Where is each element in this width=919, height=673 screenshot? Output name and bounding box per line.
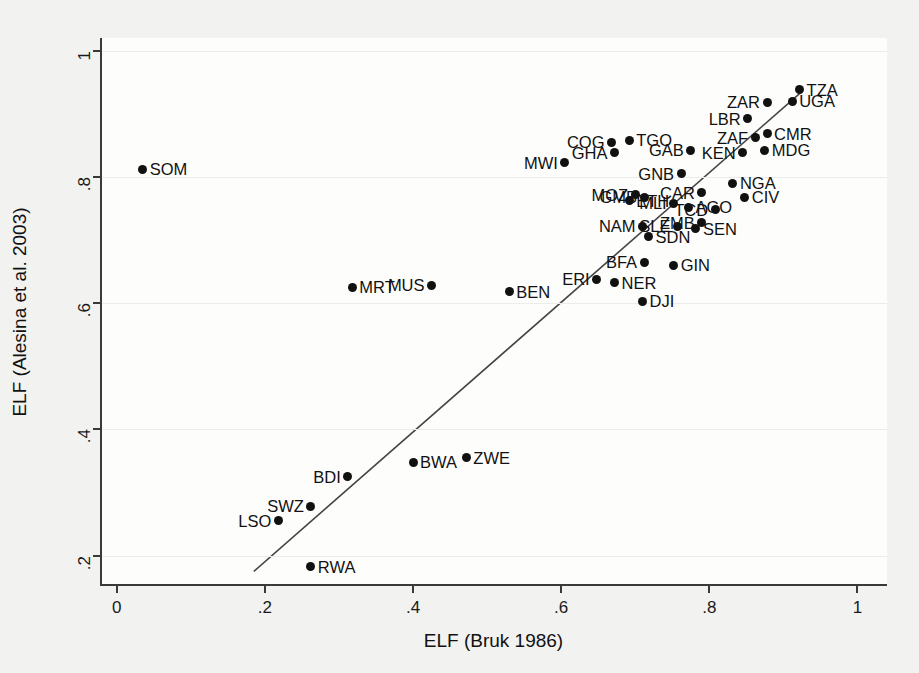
data-point bbox=[348, 283, 357, 292]
x-axis-tick bbox=[264, 584, 266, 593]
data-point-label: GMB bbox=[600, 189, 638, 206]
data-point-label: NGA bbox=[740, 175, 776, 192]
data-point-label: LBR bbox=[709, 111, 741, 128]
data-point-label: TZA bbox=[807, 82, 838, 99]
plot-area: SOMMRTMUSBENERINERDJIBFAGINNAMSDNSLESENZ… bbox=[102, 38, 887, 584]
data-point-label: ZAF bbox=[717, 129, 748, 146]
data-point-label: ZWE bbox=[473, 450, 510, 467]
data-point-label: SOM bbox=[150, 161, 188, 178]
x-axis-title: ELF (Bruk 1986) bbox=[100, 630, 887, 652]
data-point-label: LSO bbox=[238, 513, 271, 530]
data-point bbox=[640, 258, 649, 267]
data-point-label: ERI bbox=[562, 271, 590, 288]
data-point bbox=[763, 98, 772, 107]
data-point bbox=[788, 97, 797, 106]
data-point bbox=[763, 129, 772, 138]
gridline-y bbox=[102, 429, 887, 430]
data-point-label: DJI bbox=[650, 293, 675, 310]
x-axis-tick-label: 0 bbox=[112, 598, 121, 618]
data-point-label: KEN bbox=[702, 145, 736, 162]
x-axis-tick-label: .4 bbox=[406, 598, 420, 618]
data-point-label: SWZ bbox=[267, 498, 304, 515]
data-point-label: GIN bbox=[681, 257, 710, 274]
x-axis-tick-label: .2 bbox=[258, 598, 272, 618]
data-point-label: BDI bbox=[313, 468, 341, 485]
data-point bbox=[625, 136, 634, 145]
y-axis-tick-label: .6 bbox=[75, 303, 95, 317]
data-point-label: BFA bbox=[606, 254, 637, 271]
data-point bbox=[409, 458, 418, 467]
data-point bbox=[677, 169, 686, 178]
data-point bbox=[427, 281, 436, 290]
data-point-label: TGO bbox=[636, 132, 672, 149]
data-point-label: BWA bbox=[420, 454, 457, 471]
gridline-y bbox=[102, 556, 887, 557]
data-point bbox=[638, 297, 647, 306]
x-axis-tick bbox=[856, 584, 858, 593]
data-point-label: BEN bbox=[516, 283, 550, 300]
x-axis-tick-label: .6 bbox=[554, 598, 568, 618]
data-point-label: MWI bbox=[524, 155, 558, 172]
x-axis-tick-label: 1 bbox=[853, 598, 862, 618]
data-point-label: CAR bbox=[660, 184, 695, 201]
y-axis-tick-label: 1 bbox=[75, 51, 95, 60]
data-point bbox=[505, 287, 514, 296]
data-point-label: NAM bbox=[599, 218, 636, 235]
gridline-y bbox=[102, 303, 887, 304]
data-point-label: CMR bbox=[774, 126, 812, 143]
data-point-label: NER bbox=[621, 275, 656, 292]
scatter-plot-figure: SOMMRTMUSBENERINERDJIBFAGINNAMSDNSLESENZ… bbox=[0, 0, 919, 673]
data-point-label: ZAR bbox=[727, 94, 760, 111]
data-point bbox=[740, 193, 749, 202]
gridline-y bbox=[102, 51, 887, 52]
data-point bbox=[669, 261, 678, 270]
x-axis-tick bbox=[412, 584, 414, 593]
data-point bbox=[751, 133, 760, 142]
data-point-label: COG bbox=[567, 134, 605, 151]
data-point bbox=[592, 275, 601, 284]
y-axis-tick-label: .2 bbox=[75, 556, 95, 570]
data-point-label: RWA bbox=[318, 559, 356, 576]
x-axis-tick bbox=[116, 584, 118, 593]
data-point-label: MUS bbox=[388, 277, 425, 294]
x-axis-tick-label: .8 bbox=[702, 598, 716, 618]
data-point bbox=[607, 138, 616, 147]
y-axis-tick-label: .4 bbox=[75, 429, 95, 443]
data-point-label: GNB bbox=[638, 165, 674, 182]
data-point-label: SEN bbox=[703, 220, 737, 237]
data-point bbox=[138, 165, 147, 174]
x-axis-tick bbox=[708, 584, 710, 593]
y-axis-tick-label: .8 bbox=[75, 177, 95, 191]
regression-line bbox=[102, 38, 887, 584]
data-point bbox=[711, 205, 720, 214]
data-point-label: MDG bbox=[772, 142, 811, 159]
plot-frame: SOMMRTMUSBENERINERDJIBFAGINNAMSDNSLESENZ… bbox=[100, 38, 887, 586]
x-axis-tick bbox=[560, 584, 562, 593]
y-axis-title: ELF (Alesina et al. 2003) bbox=[0, 38, 40, 586]
data-point-label: TCD bbox=[674, 201, 708, 218]
